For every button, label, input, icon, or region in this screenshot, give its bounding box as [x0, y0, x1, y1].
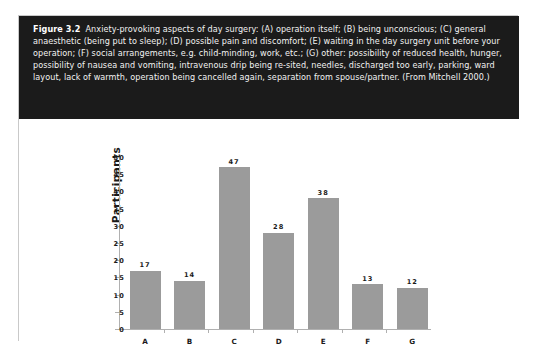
- x-axis-label-B: B: [175, 337, 205, 346]
- chart-region: Participants 50 45 40 35 30 25 20 15 10 …: [19, 119, 519, 342]
- bar-E: [308, 198, 339, 329]
- x-axis-label-E: E: [308, 337, 338, 346]
- x-axis-label-G: G: [397, 337, 427, 346]
- x-axis-tick: [297, 329, 298, 333]
- figure-number-label: Figure 3.2: [33, 24, 81, 34]
- bar-value-D: 28: [262, 223, 296, 231]
- y-axis-tick-label: 5: [99, 309, 125, 317]
- bar-value-C: 47: [217, 158, 251, 166]
- x-axis-tick: [386, 329, 387, 333]
- y-axis-tick-label: 15: [99, 274, 125, 282]
- y-axis-tick-label: 0: [99, 326, 125, 334]
- figure-frame: Figure 3.2Anxiety-provoking aspects of d…: [18, 15, 518, 341]
- bar-A: [130, 271, 161, 330]
- bar-value-E: 38: [306, 189, 340, 197]
- bar-value-G: 12: [395, 278, 429, 286]
- y-axis-tick-label: 40: [99, 188, 125, 196]
- y-axis-tick-label: 30: [99, 223, 125, 231]
- y-axis-tick-label: 50: [99, 154, 125, 162]
- bar-value-A: 17: [128, 261, 162, 269]
- bar-value-F: 13: [351, 275, 385, 283]
- bar-value-B: 14: [173, 271, 207, 279]
- figure-caption-text: Figure 3.2Anxiety-provoking aspects of d…: [33, 23, 505, 83]
- plot-area: 50 45 40 35 30 25 20 15 10 5 0 17 A: [119, 157, 431, 329]
- bar-F: [352, 284, 383, 329]
- x-axis-tick: [164, 329, 165, 333]
- x-axis-tick: [253, 329, 254, 333]
- x-axis-label-A: A: [130, 337, 160, 346]
- figure-caption-band: Figure 3.2Anxiety-provoking aspects of d…: [19, 16, 519, 119]
- y-axis-tick-label: 25: [99, 240, 125, 248]
- bar-C: [219, 167, 250, 329]
- x-axis-label-D: D: [264, 337, 294, 346]
- bar-B: [174, 281, 205, 329]
- x-axis-tick: [208, 329, 209, 333]
- x-axis-line: [119, 329, 431, 330]
- x-axis-tick: [342, 329, 343, 333]
- figure-caption-body: Anxiety-provoking aspects of day surgery…: [33, 24, 502, 82]
- y-axis-tick-label: 45: [99, 171, 125, 179]
- y-axis-tick-label: 20: [99, 257, 125, 265]
- x-axis-label-C: C: [219, 337, 249, 346]
- y-axis-tick-label: 10: [99, 292, 125, 300]
- bar-G: [397, 288, 428, 329]
- x-axis-label-F: F: [353, 337, 383, 346]
- y-axis-tick-label: 35: [99, 206, 125, 214]
- bar-D: [263, 233, 294, 329]
